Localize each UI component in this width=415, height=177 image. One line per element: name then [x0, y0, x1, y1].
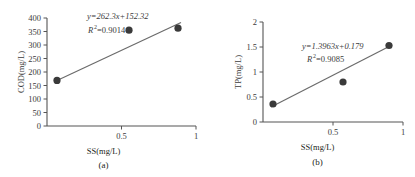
x-tick-label: 0.5	[328, 127, 339, 137]
y-tick-label: 50	[33, 108, 42, 118]
y-tick-label: 150	[28, 81, 41, 91]
equation-label-a: y=262.3x+152.32	[86, 11, 149, 21]
y-tick-label: 400	[28, 13, 41, 23]
y-tick-label: 250	[28, 54, 41, 64]
y-tick-labels-b: 0 0.5 1 1.5 2	[246, 17, 257, 127]
y-tick-label: 200	[28, 67, 41, 77]
data-point	[125, 27, 132, 34]
panel-caption-a: (a)	[0, 160, 207, 170]
chart-panel-b: 0 0.5 1 1.5 2 0.5 1 TP(mg/L)	[207, 0, 414, 177]
y-tick-label: 350	[28, 27, 41, 37]
y-tick-labels-a: 0 50 100 150 200 250 300 350 400	[28, 13, 41, 131]
scatter-plot-a: 0 50 100 150 200 250 300 350 400 0.5 1 C…	[0, 0, 207, 145]
x-tick-label: 1	[401, 127, 405, 137]
y-tick-label: 0	[37, 121, 41, 131]
data-point	[174, 25, 181, 32]
r2-label-a: R 2 =0.9014	[87, 24, 126, 35]
y-tick-label: 100	[28, 94, 41, 104]
r2-prefix: R	[306, 54, 313, 64]
r2-label-b: R 2 =0.9085	[306, 53, 344, 64]
x-tick-labels-b: 0.5 1	[328, 127, 405, 137]
data-point	[385, 42, 392, 49]
figure-two-panel-scatter: 0 50 100 150 200 250 300 350 400 0.5 1 C…	[0, 0, 415, 177]
chart-panel-a: 0 50 100 150 200 250 300 350 400 0.5 1 C…	[0, 0, 207, 177]
y-tick-label: 0	[253, 117, 257, 127]
r2-value: =0.9014	[97, 25, 126, 35]
scatter-plot-b: 0 0.5 1 1.5 2 0.5 1 TP(mg/L)	[207, 0, 415, 145]
y-tick-label: 300	[28, 40, 41, 50]
x-tick-label: 1	[194, 131, 198, 141]
panel-caption-b: (b)	[207, 157, 414, 167]
data-point	[269, 100, 276, 107]
x-tick-labels-a: 0.5 1	[116, 131, 198, 141]
x-axis-title-b: SS(mg/L)	[207, 142, 414, 152]
y-tick-label: 2	[253, 17, 257, 27]
y-tick-label: 1.5	[246, 42, 257, 52]
y-axis-title-a: COD(mg/L)	[16, 51, 26, 93]
data-point	[339, 78, 346, 85]
r2-prefix: R	[87, 25, 94, 35]
data-point	[53, 77, 60, 84]
y-axis-title-b: TP(mg/L)	[233, 55, 243, 89]
r2-value: =0.9085	[316, 54, 344, 64]
y-tick-label: 1	[253, 67, 257, 77]
x-tick-label: 0.5	[116, 131, 127, 141]
y-tick-label: 0.5	[246, 92, 257, 102]
x-axis-title-a: SS(mg/L)	[0, 146, 207, 156]
equation-label-b: y=1.3963x+0.179	[301, 41, 364, 51]
